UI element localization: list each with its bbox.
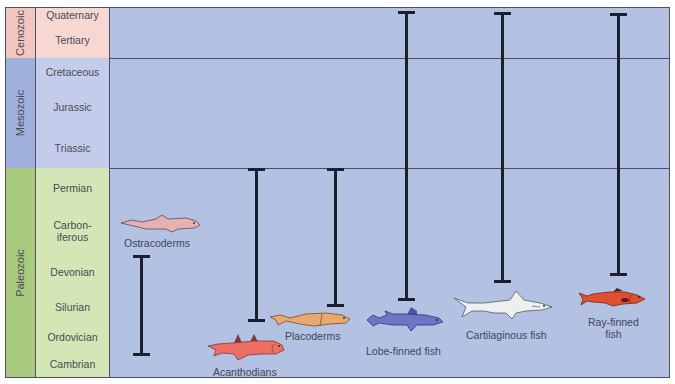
ray-finned-range-bottom-cap <box>610 273 627 276</box>
lobe-finned-fish-icon <box>367 305 445 335</box>
lobe-finned-fish-label: Lobe-finned fish <box>366 345 441 357</box>
lobe-finned-range-bottom-cap <box>398 298 415 301</box>
acanthodian-fish-icon <box>208 332 286 362</box>
ostracoderms-label: Ostracoderms <box>124 237 190 249</box>
cartilaginous-range-bar <box>501 13 504 281</box>
acanthodians-label: Acanthodians <box>213 366 277 378</box>
placoderm-fish-icon <box>270 309 352 329</box>
acanthodians-range-bottom-cap <box>248 319 265 322</box>
cartilaginous-fish-label: Cartilaginous fish <box>466 329 547 341</box>
ostracoderms-range-bottom-cap <box>133 353 150 356</box>
ray-finned-fish-label: Ray-finned fish <box>588 316 639 340</box>
lobe-finned-range-bar <box>405 12 408 299</box>
placoderms-range-bottom-cap <box>327 304 344 307</box>
acanthodians-range-bar <box>255 169 258 321</box>
ray-finned-label-line1: Ray-finned <box>588 316 639 328</box>
ray-finned-label-line2: fish <box>588 328 639 340</box>
ostracoderm-fish-icon <box>120 213 202 233</box>
placoderms-label: Placoderms <box>285 330 340 342</box>
ray-finned-fish-icon <box>579 287 647 309</box>
placoderms-range-bar <box>334 169 337 305</box>
cartilaginous-range-bottom-cap <box>494 280 511 283</box>
cartilaginous-fish-icon <box>454 289 554 323</box>
ray-finned-range-bar <box>617 14 620 275</box>
ostracoderms-range-bar <box>140 256 143 355</box>
